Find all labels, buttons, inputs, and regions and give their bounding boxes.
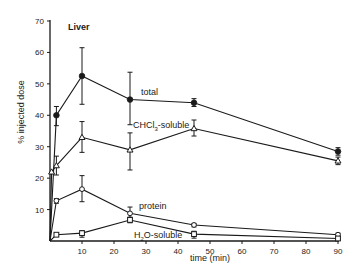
data-point-marker <box>54 112 60 118</box>
y-tick-label: 40 <box>35 111 44 120</box>
series-label-protein: protein <box>139 201 167 211</box>
x-tick-label: 20 <box>110 247 119 256</box>
data-point-marker <box>128 211 133 216</box>
data-point-marker <box>335 149 341 155</box>
series-label-total: total <box>141 87 158 97</box>
x-tick-label: 30 <box>142 247 151 256</box>
x-tick-label: 80 <box>302 247 311 256</box>
series-h2o-soluble <box>50 217 341 241</box>
series-label-chcl3-soluble: CHCl3-soluble <box>133 120 189 132</box>
data-point-marker <box>79 134 85 139</box>
x-tick-label: 10 <box>78 247 87 256</box>
x-axis-label: time (min) <box>190 253 230 263</box>
data-point-marker <box>79 73 85 79</box>
chart-title: Liver <box>68 22 90 32</box>
x-tick-label: 70 <box>270 247 279 256</box>
data-point-marker <box>192 223 197 228</box>
series-total <box>50 48 341 241</box>
data-point-marker <box>54 198 59 203</box>
y-tick-label: 10 <box>35 206 44 215</box>
data-point-marker <box>127 97 133 103</box>
x-tick-label: 60 <box>238 247 247 256</box>
y-tick-label: 50 <box>35 80 44 89</box>
data-point-marker <box>336 236 341 241</box>
data-point-marker <box>80 231 85 236</box>
y-axis-label: % injected dose <box>16 80 26 144</box>
x-tick-label: 90 <box>334 247 343 256</box>
data-point-marker <box>191 125 197 130</box>
y-tick-label: 20 <box>35 174 44 183</box>
data-point-marker <box>54 232 59 237</box>
liver-distribution-chart: 10203040506070102030405060708090 Liver %… <box>0 0 360 279</box>
series-label-h2o-soluble: H2O-soluble <box>134 230 182 242</box>
data-point-marker <box>128 218 133 223</box>
y-tick-label: 30 <box>35 143 44 152</box>
data-point-marker <box>191 100 197 106</box>
x-tick-label: 40 <box>174 247 183 256</box>
series-layer <box>49 48 341 241</box>
data-point-marker <box>80 187 85 192</box>
y-tick-label: 70 <box>35 17 44 26</box>
data-point-marker <box>192 232 197 237</box>
y-tick-label: 60 <box>35 48 44 57</box>
